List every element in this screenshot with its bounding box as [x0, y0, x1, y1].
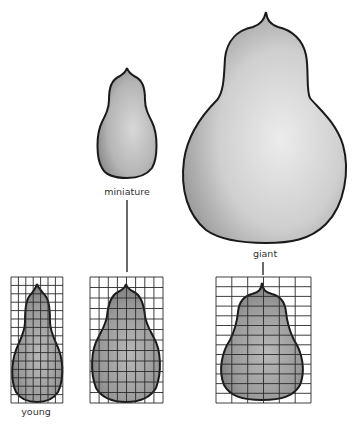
giant-gourd [183, 12, 346, 243]
miniature-gourd [98, 68, 157, 178]
miniature-label: miniature [104, 186, 150, 197]
miniature-gourd-grid [90, 277, 163, 403]
young-gourd-grid [11, 277, 63, 403]
giant-label: giant [253, 248, 278, 259]
gourd-diagram: miniature giant young [0, 0, 358, 425]
giant-gourd-grid [216, 277, 311, 403]
young-label: young [21, 406, 51, 417]
